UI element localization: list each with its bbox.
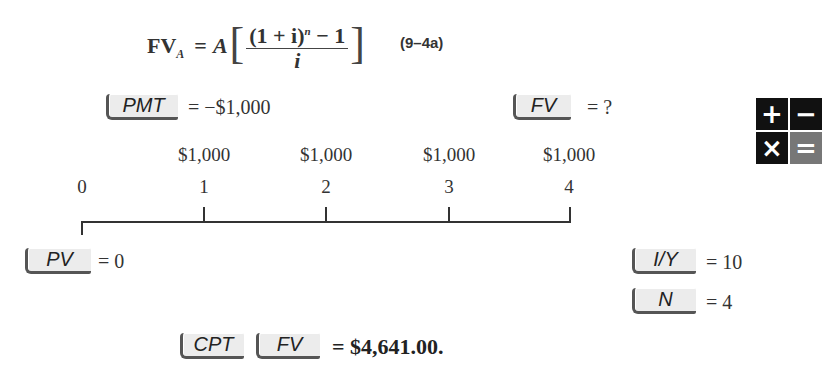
period-3: 3 xyxy=(444,176,454,198)
period-2: 2 xyxy=(321,176,331,198)
minus-icon: − xyxy=(790,98,822,130)
times-icon: × xyxy=(756,132,788,164)
period-4: 4 xyxy=(564,176,574,198)
pmt-value: = −$1,000 xyxy=(188,96,271,119)
fv-compute-key[interactable]: FV xyxy=(256,333,320,359)
formula-equals: = xyxy=(194,33,207,59)
formula-denominator: i xyxy=(294,49,300,73)
timeline-tick-1 xyxy=(203,207,205,222)
annuity-fv-formula: FV A = A [ (1 + i)n − 1 i ] xyxy=(147,18,365,74)
period-1: 1 xyxy=(199,176,209,198)
formula-numerator: (1 + i)n − 1 xyxy=(246,19,348,49)
equals-icon: = xyxy=(790,132,822,164)
cash-flow-1: $1,000 xyxy=(178,144,230,166)
timeline-tick-4 xyxy=(569,207,571,222)
timeline-tick-2 xyxy=(325,207,327,222)
pv-value: = 0 xyxy=(98,250,124,273)
pmt-key[interactable]: PMT xyxy=(106,94,178,120)
iy-value: = 10 xyxy=(706,251,742,274)
cash-flow-4: $1,000 xyxy=(543,144,595,166)
n-value: = 4 xyxy=(706,291,732,314)
fv-key[interactable]: FV xyxy=(513,94,571,120)
iy-key[interactable]: I/Y xyxy=(632,248,696,274)
equation-number: (9–4a) xyxy=(400,34,443,51)
pv-key[interactable]: PV xyxy=(25,248,91,274)
formula-coefficient: A xyxy=(213,33,228,59)
cash-flow-2: $1,000 xyxy=(300,144,352,166)
cash-flow-3: $1,000 xyxy=(423,144,475,166)
timeline-tick-0 xyxy=(81,221,83,235)
plus-icon: + xyxy=(756,98,788,130)
numerator-base: (1 + i) xyxy=(249,23,304,48)
cpt-key[interactable]: CPT xyxy=(180,333,244,359)
period-0: 0 xyxy=(77,176,87,198)
calculator-operators-icon: + − × = xyxy=(756,98,822,164)
timeline-tick-3 xyxy=(448,207,450,222)
formula-lhs: FV xyxy=(147,33,176,59)
numerator-tail: − 1 xyxy=(311,23,346,48)
fv-value: = ? xyxy=(587,96,612,119)
formula-lhs-subscript: A xyxy=(176,47,184,62)
left-bracket: [ xyxy=(230,22,245,66)
formula-fraction: (1 + i)n − 1 i xyxy=(246,19,348,73)
n-key[interactable]: N xyxy=(632,288,696,314)
fv-result: = $4,641.00. xyxy=(332,334,444,360)
right-bracket: ] xyxy=(350,22,365,66)
